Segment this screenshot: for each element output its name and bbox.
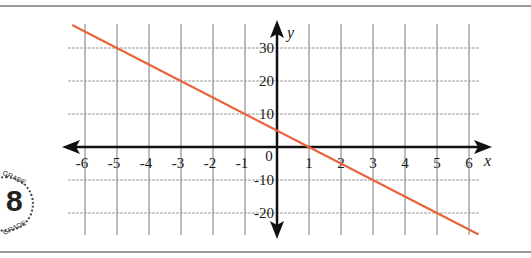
x-tick-label: 0 <box>265 148 273 164</box>
x-tick-label: -2 <box>204 155 217 171</box>
x-tick-label: -3 <box>172 155 185 171</box>
y-tick-label: 20 <box>259 73 274 89</box>
y-tick-label: -20 <box>254 205 274 221</box>
series-line <box>72 25 478 235</box>
x-tick-label: 5 <box>433 155 441 171</box>
x-tick-label: -4 <box>140 155 153 171</box>
x-tick-label: -5 <box>108 155 121 171</box>
y-tick-label: 30 <box>259 40 274 56</box>
x-tick-label: 6 <box>465 155 473 171</box>
series-group <box>72 25 478 235</box>
y-tick-label: -10 <box>254 172 274 188</box>
tick-labels: -6-5-4-3-2-10123456302010-10-20xy <box>76 24 491 221</box>
y-tick-label: 10 <box>259 106 274 122</box>
line-chart: -6-5-4-3-2-10123456302010-10-20xy <box>0 0 531 258</box>
x-tick-label: -1 <box>236 155 249 171</box>
x-tick-label: -6 <box>76 155 89 171</box>
x-tick-label: 1 <box>305 155 313 171</box>
x-tick-label: 4 <box>401 155 409 171</box>
y-axis-label: y <box>285 24 295 42</box>
x-axis-label: x <box>483 152 491 169</box>
x-tick-label: 3 <box>369 155 377 171</box>
